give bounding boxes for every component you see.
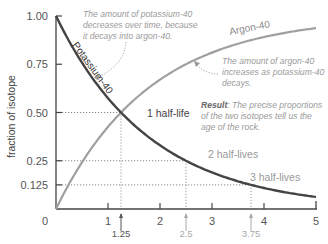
half-life-value: 1.25 — [112, 228, 131, 239]
potassium-annotation: it decays into argon-40. — [83, 31, 172, 41]
arrow-head-icon — [119, 213, 123, 218]
argon-annotation: increases as potassium-40 — [222, 67, 324, 77]
y-tick-label: 1.00 — [27, 10, 48, 22]
y-tick-label: 0.75 — [27, 58, 48, 70]
result-annotation: Result: The precise proportions — [201, 100, 323, 110]
x-tick-label: 1 — [105, 215, 111, 227]
argon-40-label: Argon-40 — [228, 18, 271, 37]
arrow-head-icon — [194, 61, 200, 67]
half-life-value: 3.75 — [242, 228, 261, 239]
potassium-annotation: The amount of potassium-40 — [83, 9, 193, 19]
x-tick-label: 4 — [261, 215, 267, 227]
x-tick-label: 0 — [42, 215, 48, 227]
x-tick-label: 3 — [209, 215, 215, 227]
chart: 0.1250.250.500.751.00012345Potassium-40A… — [0, 0, 328, 244]
annotation-pointer — [196, 64, 218, 74]
y-tick-label: 0.125 — [20, 179, 48, 191]
y-tick-label: 0.50 — [27, 107, 48, 119]
arrow-head-icon — [184, 213, 188, 218]
arrow-head-icon — [249, 213, 253, 218]
result-annotation: of the two isotopes tell us the — [201, 111, 312, 121]
half-life-label: 1 half-life — [147, 107, 190, 119]
argon-annotation: decays. — [222, 78, 252, 88]
potassium-40-label: Potassium-40 — [70, 40, 115, 96]
half-life-value: 2.5 — [179, 228, 192, 239]
argon-annotation: The amount of argon-40 — [222, 56, 314, 66]
half-life-label: 3 half-lives — [250, 171, 300, 183]
x-tick-label: 2 — [157, 215, 163, 227]
y-axis-title: fraction of isotope — [5, 75, 17, 158]
result-annotation: age of the rock. — [201, 122, 260, 132]
half-life-label: 2 half-lives — [208, 148, 258, 160]
y-tick-label: 0.25 — [27, 155, 48, 167]
x-tick-label: 5 — [313, 215, 319, 227]
potassium-annotation: decreases over time, because — [83, 20, 198, 30]
